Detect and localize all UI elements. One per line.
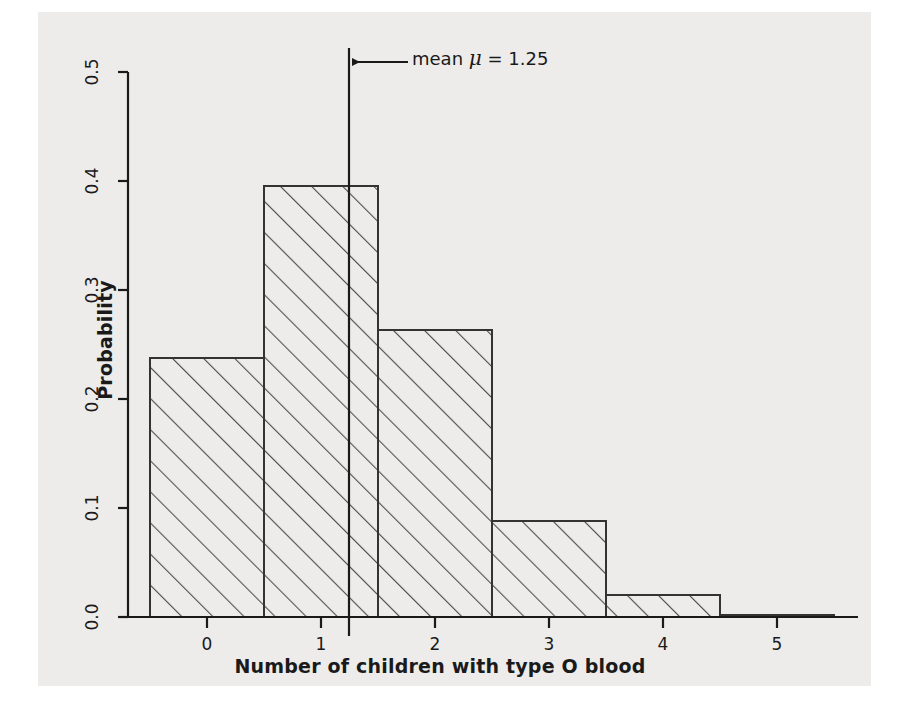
x-axis-title: Number of children with type O blood <box>0 655 880 677</box>
mean-annotation-prefix: mean <box>412 48 463 69</box>
mean-annotation-value: 1.25 <box>508 48 548 69</box>
bar-2 <box>378 330 492 617</box>
bar-1 <box>264 186 378 617</box>
bars-group <box>150 186 834 617</box>
figure-canvas: 0.0 0.1 0.2 0.3 0.4 0.5 0 1 2 3 4 5 Prob… <box>0 0 908 714</box>
x-tick-label-1: 1 <box>306 634 336 654</box>
x-tick-label-5: 5 <box>762 634 792 654</box>
bar-0 <box>150 358 264 617</box>
y-axis-title: Probability <box>94 240 116 440</box>
x-tick-label-2: 2 <box>420 634 450 654</box>
y-tick-label-1: 0.1 <box>82 486 102 530</box>
mean-annotation-equals: = <box>488 48 503 69</box>
x-tick-label-3: 3 <box>534 634 564 654</box>
mu-symbol: μ <box>469 46 482 70</box>
y-tick-label-0: 0.0 <box>82 595 102 639</box>
bar-3 <box>492 521 606 617</box>
mean-annotation-label: mean μ = 1.25 <box>412 46 548 70</box>
histogram-plot <box>0 0 908 714</box>
bar-4 <box>606 595 720 617</box>
y-tick-label-4: 0.4 <box>82 159 102 203</box>
x-tick-label-4: 4 <box>648 634 678 654</box>
x-tick-label-0: 0 <box>192 634 222 654</box>
y-tick-label-5: 0.5 <box>82 50 102 94</box>
